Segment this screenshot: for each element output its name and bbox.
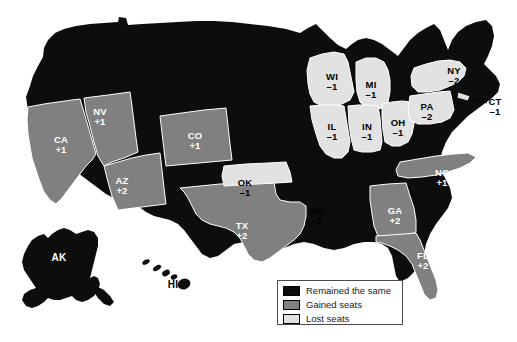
state-WI	[307, 52, 354, 106]
legend-label-remained-the-same: Remained the same	[306, 285, 391, 296]
alaska-panhandle	[94, 286, 114, 306]
hawaii-islands	[141, 258, 191, 291]
state-PA	[408, 91, 454, 124]
legend-item-gained-seats: Gained seats	[283, 298, 398, 311]
state-MI	[356, 58, 390, 110]
legend-label-lost-seats: Lost seats	[306, 313, 349, 324]
us-map-graphic	[0, 0, 517, 342]
map-legend: Remained the same Gained seats Lost seat…	[277, 280, 403, 325]
legend-swatch-lost-seats	[283, 314, 300, 324]
alaska-shape	[22, 228, 100, 308]
legend-item-lost-seats: Lost seats	[283, 312, 398, 325]
legend-swatch-gained-seats	[283, 300, 300, 310]
state-CO	[160, 108, 232, 166]
legend-label-gained-seats: Gained seats	[306, 299, 362, 310]
us-seat-change-map: WI –1 MI –1 NY –2 CT –1 PA –2 IL –1 IN –…	[0, 0, 517, 342]
state-IN	[348, 105, 382, 152]
state-OK	[222, 162, 292, 186]
legend-swatch-remained-the-same	[283, 286, 300, 296]
legend-item-remained-the-same: Remained the same	[283, 284, 398, 297]
